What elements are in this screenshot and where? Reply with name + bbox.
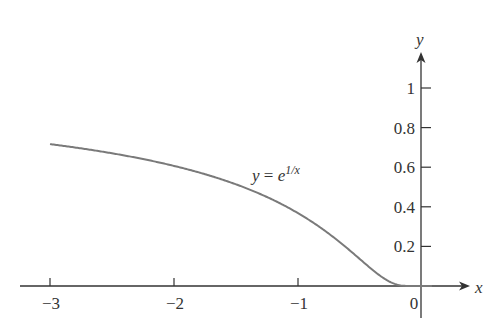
y-tick-label: 0.8	[394, 119, 415, 138]
y-tick-label: 0.2	[394, 237, 415, 256]
axes	[20, 52, 470, 318]
chart-svg: −3−2−100.20.40.60.81xy y = e1/x	[0, 0, 503, 328]
y-axis-label: y	[414, 30, 424, 49]
chart: −3−2−100.20.40.60.81xy y = e1/x	[0, 0, 503, 328]
curve-annotation: y = e1/x	[250, 163, 301, 185]
x-tick-label: −2	[166, 294, 184, 313]
x-axis-label: x	[474, 278, 483, 297]
y-tick-label: 0.4	[394, 198, 416, 217]
curve-exp-one-over-x	[50, 144, 432, 286]
x-tick-label: −1	[290, 294, 308, 313]
y-tick-label: 1	[407, 79, 416, 98]
y-tick-label: 0.6	[394, 158, 415, 177]
x-tick-label: 0	[410, 294, 419, 313]
x-tick-label: −3	[42, 294, 60, 313]
